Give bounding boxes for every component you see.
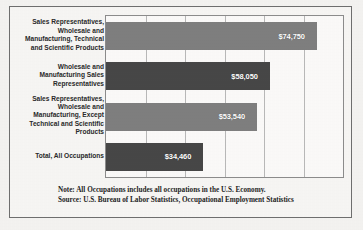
- category-label: Total, All Occupations: [16, 136, 104, 176]
- plot-area: $74,750$58,050$53,540$34,460: [105, 15, 344, 178]
- bar-value-label: $74,750: [278, 32, 316, 41]
- bars-layer: $74,750$58,050$53,540$34,460: [106, 16, 343, 177]
- bar[interactable]: $34,460: [106, 143, 203, 171]
- bar[interactable]: $74,750: [106, 22, 317, 50]
- category-label-text: Total, All Occupations: [16, 152, 104, 160]
- bar[interactable]: $53,540: [106, 103, 257, 131]
- bar[interactable]: $58,050: [106, 62, 270, 90]
- bar-row: $53,540: [106, 103, 343, 131]
- bar-row: $34,460: [106, 143, 343, 171]
- bar-chart: $74,750$58,050$53,540$34,460 Sales Repre…: [10, 7, 351, 216]
- category-label: Sales Representatives, Wholesale and Man…: [16, 15, 104, 55]
- footnote-source: Source: U.S. Bureau of Labor Statistics,…: [58, 195, 348, 205]
- category-label: Sales Representatives, Wholesale and Man…: [16, 96, 104, 136]
- bar-value-label: $53,540: [219, 112, 257, 121]
- bar-row: $58,050: [106, 62, 343, 90]
- category-label-text: Sales Representatives, Wholesale and Man…: [16, 18, 104, 52]
- footnote-note: Note: All Occupations includes all occup…: [58, 185, 348, 195]
- bar-value-label: $58,050: [231, 72, 269, 81]
- bar-row: $74,750: [106, 22, 343, 50]
- footnotes: Note: All Occupations includes all occup…: [58, 185, 348, 206]
- category-label: Wholesale and Manufacturing Sales Repres…: [16, 55, 104, 95]
- category-label-text: Sales Representatives, Wholesale and Man…: [16, 95, 104, 137]
- category-label-text: Wholesale and Manufacturing Sales Repres…: [16, 63, 104, 88]
- bar-value-label: $34,460: [165, 152, 203, 161]
- chart-figure-frame: $74,750$58,050$53,540$34,460 Sales Repre…: [9, 6, 352, 218]
- category-axis-labels: Sales Representatives, Wholesale and Man…: [16, 15, 104, 178]
